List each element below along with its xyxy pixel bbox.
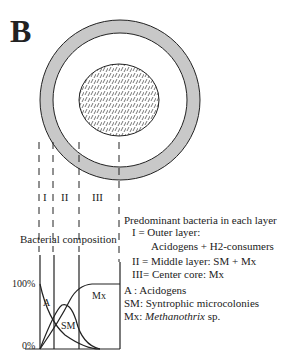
y-tick-100: 100% [12,278,35,290]
legend-item-I-detail: Acidogens + H2-consumers [151,240,274,252]
curve-Mx [40,284,120,349]
legend-item-I: I = Outer layer: [132,226,200,238]
curve-label-A: A [43,297,50,309]
center-core [79,64,159,136]
layer-label-II: II [61,191,68,203]
abbrev-Mx: Mx: Methanothrix sp. [124,310,220,322]
curve-label-Mx: Mx [92,290,106,302]
abbrev-A: A : Acidogens [124,284,186,296]
chart-title: Bacterial composition [20,233,117,245]
legend-title: Predominant bacteria in each layer [124,214,277,226]
abbrev-SM: SM: Syntrophic microcolonies [124,297,259,309]
legend-item-III: III= Center core: Mx [132,268,224,280]
legend-item-II: II = Middle layer: SM + Mx [132,255,256,267]
curve-label-SM: SM [61,320,75,332]
curve-A [40,284,100,349]
layer-label-I: I [43,191,47,203]
composition-chart [25,255,120,349]
y-tick-0: 0% [22,340,35,352]
layer-label-III: III [92,191,103,203]
